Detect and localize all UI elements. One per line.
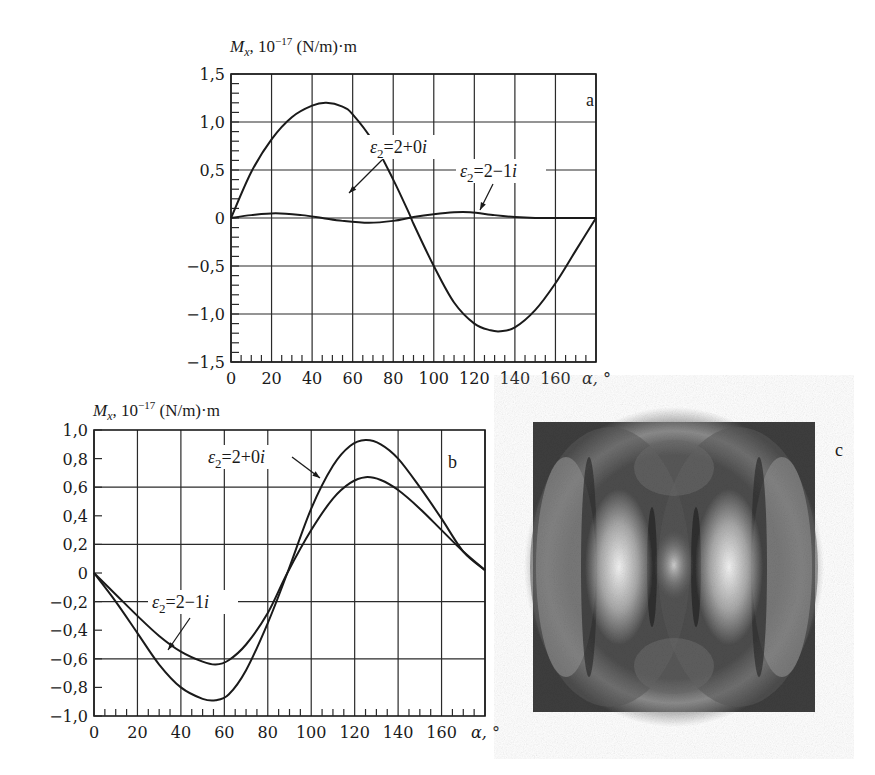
panel-letter-b: b [448, 452, 457, 472]
x-tick-label: 60 [342, 369, 362, 388]
y-tick-label: 0,6 [63, 478, 88, 497]
x-tick-label: 40 [302, 369, 322, 388]
y-tick-label: 0,5 [200, 161, 225, 180]
y-tick-label: −1,0 [186, 305, 225, 324]
x-tick-label: 60 [214, 723, 234, 742]
chart-b-gridlines [94, 430, 485, 716]
x-tick-label: 140 [500, 369, 531, 388]
y-axis-title: Mx, 10−17 (N/m)·m [229, 35, 357, 59]
x-tick-label: 120 [339, 723, 370, 742]
x-tick-label: 80 [383, 369, 403, 388]
chart-b-curves [94, 440, 485, 701]
x-tick-label: 140 [383, 723, 414, 742]
chart-a-y-axis-title: Mx, 10−17 (N/m)·m [229, 35, 357, 59]
panel-letter-a: a [586, 90, 594, 110]
y-tick-label: 0 [215, 209, 225, 228]
interference-pattern-image [524, 407, 824, 727]
x-tick-label: 160 [540, 369, 571, 388]
y-tick-label: −1,5 [186, 353, 225, 372]
x-axis-title: α, ° [582, 369, 611, 388]
y-tick-label: −0,2 [49, 593, 88, 612]
x-tick-label: 0 [226, 369, 236, 388]
x-tick-label: 100 [296, 723, 327, 742]
y-tick-label: 0,2 [63, 535, 88, 554]
x-tick-label: 80 [258, 723, 278, 742]
chart-b-y-axis-title: Mx, 10−17 (N/m)·m [92, 399, 220, 423]
y-tick-label: −1,0 [49, 707, 88, 726]
x-axis-title: α, ° [471, 723, 500, 742]
x-tick-label: 20 [127, 723, 147, 742]
x-tick-label: 100 [419, 369, 450, 388]
y-tick-label: −0,4 [49, 621, 88, 640]
x-tick-label: 160 [426, 723, 457, 742]
figure-canvas: 020406080100120140160α, °1,51,00,50−0,5−… [0, 0, 875, 775]
plot-frame [94, 430, 485, 716]
x-tick-label: 0 [89, 723, 99, 742]
y-tick-label: −0,5 [186, 257, 225, 276]
chart-panel-a: 020406080100120140160α, °1,51,00,50−0,5−… [186, 35, 611, 388]
y-tick-label: 0 [78, 564, 88, 583]
y-tick-label: 1,0 [63, 421, 88, 440]
arrowhead-icon [480, 202, 486, 210]
chart-a-labels: ε2=2+0iε2=2−1ia [349, 90, 594, 210]
chart-panel-b: 020406080100120140160α, °1,00,80,60,40,2… [49, 399, 500, 742]
y-tick-label: −0,6 [49, 650, 88, 669]
x-tick-label: 40 [171, 723, 191, 742]
chart-a-minor-ticks: 020406080100120140160α, °1,51,00,50−0,5−… [186, 65, 611, 388]
arrowhead-icon [312, 471, 320, 478]
y-tick-label: 1,0 [200, 113, 225, 132]
series-curve [231, 212, 596, 223]
x-tick-label: 120 [459, 369, 490, 388]
x-tick-label: 20 [261, 369, 281, 388]
y-tick-label: 1,5 [200, 65, 225, 84]
panel-letter-c: c [835, 440, 843, 461]
y-tick-label: 0,4 [63, 507, 88, 526]
y-axis-title: Mx, 10−17 (N/m)·m [92, 399, 220, 423]
chart-b-minor-ticks: 020406080100120140160α, °1,00,80,60,40,2… [49, 421, 500, 742]
y-tick-label: 0,8 [63, 450, 88, 469]
series-curve [94, 477, 485, 664]
y-tick-label: −0,8 [49, 678, 88, 697]
